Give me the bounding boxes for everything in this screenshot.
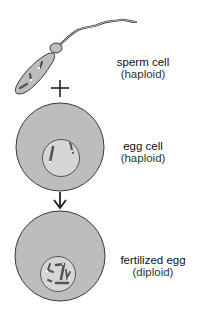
sperm-cell-ploidy: (haploid): [108, 68, 178, 80]
fertilized-egg: [15, 211, 105, 301]
sperm-tail: [58, 20, 136, 46]
fertilized-egg-ploidy: (diploid): [112, 266, 194, 278]
egg-nucleus: [43, 140, 80, 177]
sperm-cell-title: sperm cell: [108, 56, 178, 68]
egg-cell-title: egg cell: [117, 140, 169, 152]
sperm-cell-label: sperm cell (haploid): [108, 56, 178, 80]
egg-cell: [16, 103, 104, 191]
egg-cell-ploidy: (haploid): [117, 152, 169, 164]
egg-cell-label: egg cell (haploid): [117, 140, 169, 164]
sperm-midpiece: [50, 43, 62, 53]
arrow-down-icon: [54, 192, 66, 208]
fertilized-egg-title: fertilized egg: [112, 254, 194, 266]
plus-icon: [51, 80, 69, 97]
zygote-nucleus: [41, 257, 76, 292]
fertilized-egg-label: fertilized egg (diploid): [112, 254, 194, 278]
